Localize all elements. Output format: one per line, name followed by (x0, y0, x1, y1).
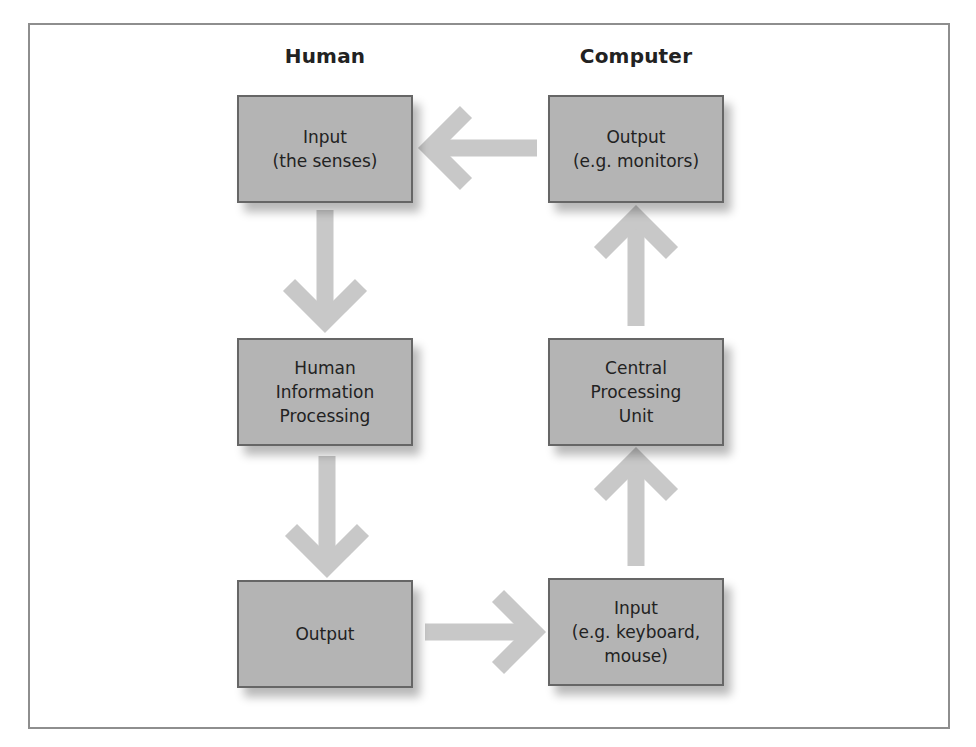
node-label: Output (295, 622, 354, 646)
node-human-output: Output (237, 580, 413, 688)
node-label: Input (the senses) (273, 125, 378, 173)
node-human-input: Input (the senses) (237, 95, 413, 203)
node-computer-cpu: Central Processing Unit (548, 338, 724, 446)
node-computer-output: Output (e.g. monitors) (548, 95, 724, 203)
column-header-computer: Computer (536, 44, 736, 68)
node-computer-input: Input (e.g. keyboard, mouse) (548, 578, 724, 686)
diagram-frame (28, 23, 950, 729)
column-header-human: Human (225, 44, 425, 68)
node-label: Input (e.g. keyboard, mouse) (572, 596, 700, 668)
node-label: Human Information Processing (276, 356, 374, 428)
node-human-processing: Human Information Processing (237, 338, 413, 446)
node-label: Output (e.g. monitors) (573, 125, 699, 173)
node-label: Central Processing Unit (591, 356, 682, 428)
